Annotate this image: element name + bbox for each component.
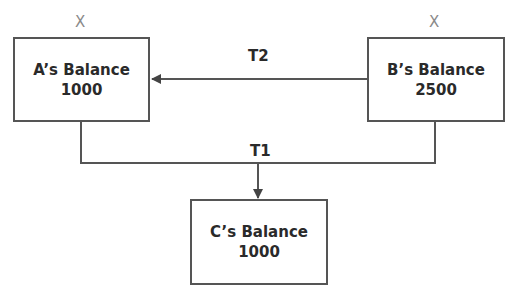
node-c-balance: C’s Balance 1000 (190, 199, 328, 285)
b-cross-mark: X (429, 13, 439, 31)
t1-label: T1 (250, 142, 271, 160)
t2-label: T2 (248, 47, 269, 65)
node-a-balance: A’s Balance 1000 (13, 37, 150, 122)
node-c-value: 1000 (238, 242, 280, 262)
a-cross-mark: X (75, 13, 85, 31)
node-a-value: 1000 (61, 80, 103, 100)
node-a-title: A’s Balance (33, 60, 130, 80)
node-b-value: 2500 (415, 80, 457, 100)
node-c-title: C’s Balance (210, 222, 308, 242)
node-b-title: B’s Balance (387, 60, 485, 80)
node-b-balance: B’s Balance 2500 (367, 37, 505, 122)
